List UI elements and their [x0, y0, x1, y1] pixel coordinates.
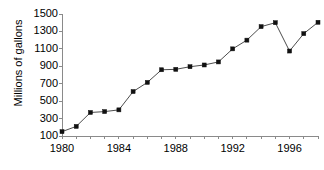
data-point-marker [316, 20, 320, 24]
data-point-marker [174, 67, 178, 71]
data-point-marker [117, 108, 121, 112]
data-point-marker [202, 63, 206, 67]
data-point-marker [145, 80, 149, 84]
line-chart: Millions of gallons 10030050070090011001… [0, 0, 324, 170]
data-point-marker [60, 130, 64, 134]
data-point-marker [231, 47, 235, 51]
data-point-marker [288, 49, 292, 53]
data-series-line [62, 22, 318, 131]
data-point-marker [259, 25, 263, 29]
plot-area [0, 0, 324, 170]
data-point-marker [74, 124, 78, 128]
data-point-marker [103, 110, 107, 114]
data-point-marker [216, 60, 220, 64]
data-point-marker [302, 32, 306, 36]
data-point-marker [88, 110, 92, 114]
data-point-marker [273, 21, 277, 25]
data-point-marker [188, 65, 192, 69]
data-point-marker [245, 38, 249, 42]
data-point-marker [131, 90, 135, 94]
data-point-markers [60, 20, 320, 133]
data-point-marker [160, 68, 164, 72]
